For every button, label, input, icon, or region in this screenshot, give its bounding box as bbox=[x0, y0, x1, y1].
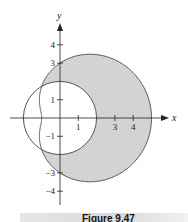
x-axis-arrow-icon bbox=[161, 115, 169, 121]
polar-diagram: 134 431−1−3−4 x y bbox=[0, 0, 188, 222]
y-tick-label: 4 bbox=[51, 40, 56, 50]
x-tick-label: 3 bbox=[113, 122, 118, 132]
y-axis-label: y bbox=[56, 10, 62, 21]
y-tick-label: −4 bbox=[45, 186, 55, 196]
y-tick-label: 1 bbox=[51, 95, 56, 105]
x-axis-label: x bbox=[171, 112, 177, 123]
x-tick-label: 4 bbox=[131, 122, 136, 132]
x-tick-label: 1 bbox=[76, 122, 81, 132]
y-tick-label: −1 bbox=[45, 131, 55, 141]
figure-caption: Figure 9.47 bbox=[82, 214, 135, 222]
y-axis-arrow-icon bbox=[57, 23, 63, 31]
y-tick-label: −3 bbox=[45, 168, 55, 178]
y-tick-label: 3 bbox=[51, 58, 56, 68]
